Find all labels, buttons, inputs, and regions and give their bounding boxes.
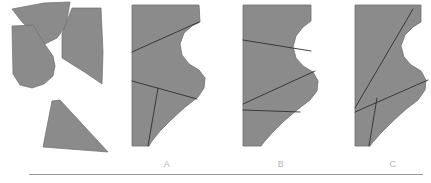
scattered-pieces-group — [12, 2, 108, 152]
option-c-shape[interactable] — [355, 5, 428, 146]
option-b-outline — [243, 5, 318, 146]
option-a-label: A — [157, 159, 177, 169]
option-b-shape[interactable] — [243, 5, 318, 146]
option-c-outline — [355, 5, 426, 146]
option-a-shape[interactable] — [132, 5, 205, 146]
figure-canvas — [0, 0, 431, 183]
piece-bottom-triangle — [43, 100, 108, 152]
piece-right-concave — [62, 8, 103, 84]
shape-assembly-puzzle-figure: A B C — [0, 0, 431, 183]
option-c-label: C — [383, 159, 403, 169]
option-a-outline — [132, 5, 205, 146]
horizontal-divider — [29, 174, 423, 175]
option-b-label: B — [271, 159, 291, 169]
